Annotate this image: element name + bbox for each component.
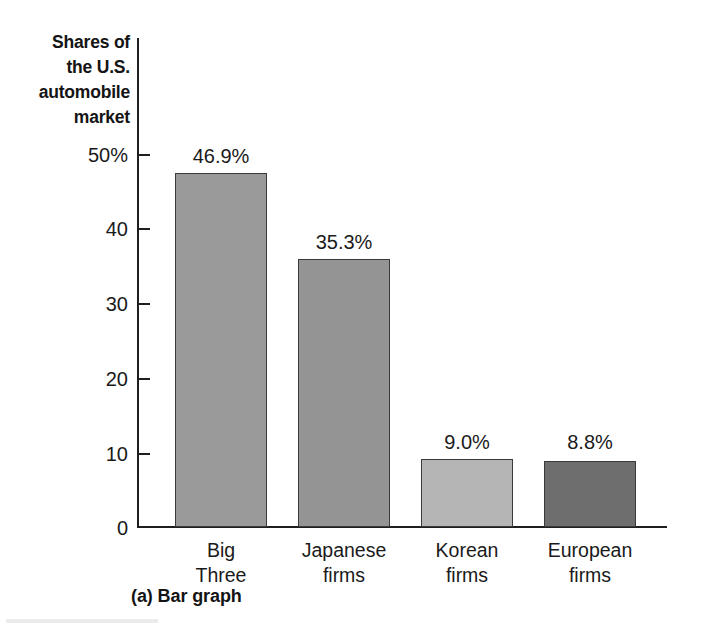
bar-japanese-firms <box>298 259 390 527</box>
bar-category-label-japanese-firms: Japanese firms <box>284 538 404 588</box>
bar-category-label-big-three: Big Three <box>161 538 281 588</box>
bar-big-three <box>175 173 267 527</box>
bar-value-japanese-firms: 35.3% <box>284 232 404 252</box>
y-tick-label-20: 20 <box>36 369 128 389</box>
bar-category-label-korean-firms: Korean firms <box>407 538 527 588</box>
figure-caption: (a) Bar graph <box>131 586 242 607</box>
y-axis-title: Shares of the U.S. automobile market <box>8 30 130 130</box>
y-tick-mark-30 <box>139 303 150 305</box>
y-tick-mark-40 <box>139 228 150 230</box>
y-tick-label-40: 40 <box>36 219 128 239</box>
y-tick-label-0: 0 <box>36 518 128 538</box>
bar-korean-firms <box>421 459 513 527</box>
bar-chart-figure: Shares of the U.S. automobile market 50%… <box>0 0 701 629</box>
bar-value-big-three: 46.9% <box>161 146 281 166</box>
y-tick-label-30: 30 <box>36 294 128 314</box>
y-tick-mark-10 <box>139 453 150 455</box>
bar-value-european-firms: 8.8% <box>530 432 650 452</box>
bar-value-korean-firms: 9.0% <box>407 432 527 452</box>
bar-category-label-european-firms: European firms <box>530 538 650 588</box>
y-tick-label-10: 10 <box>36 444 128 464</box>
bar-european-firms <box>544 461 636 527</box>
y-tick-label-50: 50% <box>36 145 128 165</box>
scan-artifact <box>6 619 158 623</box>
y-tick-mark-50 <box>139 154 150 156</box>
y-tick-mark-20 <box>139 378 150 380</box>
